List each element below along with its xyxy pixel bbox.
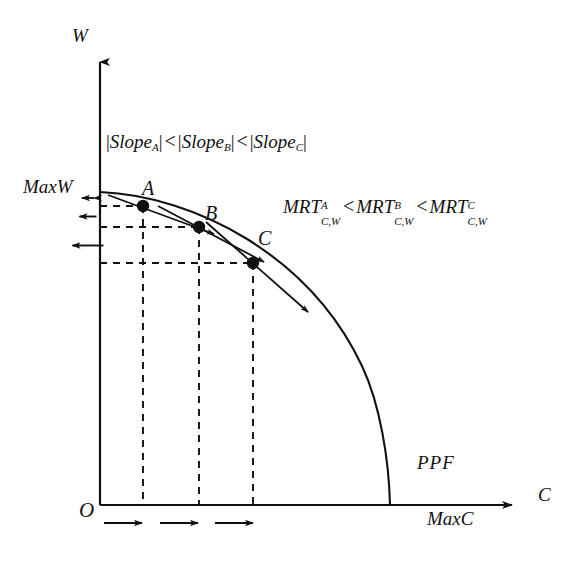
point-label-c: C	[258, 228, 271, 248]
slope-subscript-2: B	[224, 141, 231, 153]
slope-term-3: Slope	[254, 131, 296, 152]
ppf-label: PPF	[417, 453, 455, 472]
slope-term-2: Slope	[182, 131, 224, 152]
slope-term-1: Slope	[110, 131, 152, 152]
mrt-subscript-3: C,W	[468, 216, 487, 227]
mrt-operator-1: <	[341, 195, 356, 217]
mrt-superscript-2: B	[394, 200, 401, 211]
origin-label: O	[79, 500, 94, 521]
mrt-subscript-1: C,W	[321, 216, 340, 227]
ppf-diagram-svg	[0, 0, 579, 565]
mrt-text-2: MRT	[356, 196, 394, 217]
slope-operator-2: <	[234, 130, 249, 152]
point-label-a: A	[142, 178, 154, 198]
y-max-label: MaxW	[23, 177, 73, 196]
x-axis-label: C	[538, 485, 551, 504]
point-marker-a	[137, 200, 149, 212]
mrt-inequality-annotation: MRTAC,W<MRTBC,W<MRTCC,W	[283, 196, 488, 216]
slope-operator-1: <	[163, 130, 178, 152]
mrt-text-3: MRT	[430, 196, 468, 217]
x-max-label: MaxC	[427, 509, 473, 528]
w-decrement-arrows	[73, 198, 104, 246]
slope-bar-close-1: |	[159, 131, 163, 152]
mrt-operator-2: <	[414, 195, 429, 217]
y-axis-label: W	[72, 26, 88, 45]
mrt-term-1: MRTAC,W	[283, 197, 341, 216]
mrt-superscript-1: A	[321, 200, 328, 211]
mrt-term-2: MRTBC,W	[356, 197, 414, 216]
mrt-term-3: MRTCC,W	[430, 197, 488, 216]
slope-inequality-annotation: |SlopeA|<|SlopeB|<|SlopeC|	[106, 131, 307, 153]
slope-subscript-1: A	[152, 141, 159, 153]
mrt-subscript-2: C,W	[394, 216, 413, 227]
dashed-guides	[100, 206, 253, 505]
mrt-superscript-3: C	[468, 200, 475, 211]
point-label-b: B	[205, 203, 217, 223]
slope-bar-close-3: |	[303, 131, 307, 152]
mrt-text-1: MRT	[283, 196, 321, 217]
point-marker-c	[247, 257, 259, 269]
slope-subscript-3: C	[296, 141, 303, 153]
ppf-figure: W C O MaxW MaxC A B C PPF |SlopeA|<|Slop…	[0, 0, 579, 565]
point-marker-b	[193, 221, 205, 233]
